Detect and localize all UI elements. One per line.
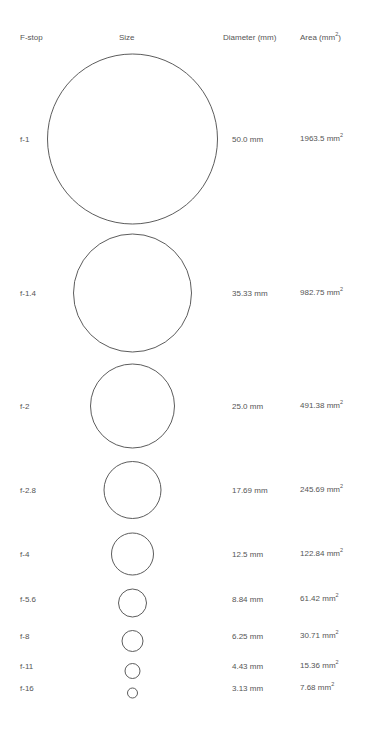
area-value: 61.42 mm2 — [300, 594, 339, 603]
fstop-label: f-1.4 — [20, 289, 36, 298]
diameter-value: 8.84 mm — [232, 595, 263, 604]
aperture-circle — [122, 631, 143, 652]
area-value: 982.75 mm2 — [300, 288, 343, 297]
diameter-value: 12.5 mm — [232, 550, 263, 559]
aperture-circle — [112, 533, 154, 575]
diameter-value: 6.25 mm — [232, 632, 263, 641]
fstop-label: f-5.6 — [20, 595, 36, 604]
fstop-label: f-2 — [20, 402, 29, 411]
area-value: 122.84 mm2 — [300, 549, 343, 558]
area-value: 15.36 mm2 — [300, 661, 339, 670]
area-value: 1963.5 mm2 — [300, 134, 343, 143]
diameter-value: 3.13 mm — [232, 684, 263, 693]
area-value: 245.69 mm2 — [300, 485, 343, 494]
fstop-label: f-1 — [20, 135, 29, 144]
diameter-value: 4.43 mm — [232, 662, 263, 671]
diameter-value: 35.33 mm — [232, 289, 268, 298]
aperture-circle — [119, 589, 147, 617]
area-value: 30.71 mm2 — [300, 631, 339, 640]
diameter-value: 25.0 mm — [232, 402, 263, 411]
fstop-label: f-2.8 — [20, 486, 36, 495]
fstop-label: f-11 — [20, 662, 33, 671]
aperture-circle — [125, 664, 140, 679]
area-value: 7.68 mm2 — [300, 683, 334, 692]
aperture-circle — [48, 54, 218, 224]
fstop-label: f-16 — [20, 684, 34, 693]
aperture-circle — [104, 462, 161, 519]
aperture-circle — [74, 234, 192, 352]
area-value: 491.38 mm2 — [300, 401, 343, 410]
aperture-circle — [91, 364, 175, 448]
diameter-value: 17.69 mm — [232, 486, 268, 495]
fstop-label: f-4 — [20, 550, 29, 559]
aperture-circle — [128, 688, 138, 698]
fstop-label: f-8 — [20, 632, 29, 641]
aperture-circles — [0, 0, 366, 733]
diameter-value: 50.0 mm — [232, 135, 263, 144]
